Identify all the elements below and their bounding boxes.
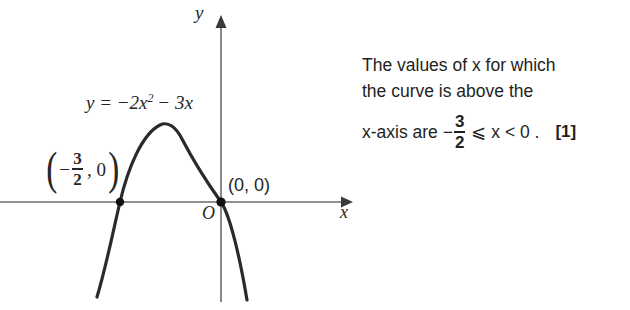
y-axis xyxy=(216,15,227,302)
answer-line-1: The values of x for which xyxy=(362,52,626,78)
fraction-denominator: 2 xyxy=(72,170,83,188)
point-label-root: ( − 3 2 , 0 ) xyxy=(44,150,121,188)
curve-equation-rhs: − 3x xyxy=(154,92,193,113)
curve-equation-lhs: y = −2x xyxy=(86,92,148,113)
answer-line-3-prefix: x-axis are − xyxy=(362,119,453,145)
marks-badge: [1] xyxy=(555,119,576,145)
answer-fraction-denominator: 2 xyxy=(454,133,465,151)
curve-equation-label: y = −2x2 − 3x xyxy=(86,92,193,112)
answer-inequality: ⩽ x < 0 . xyxy=(471,119,539,145)
axis-label-y: y xyxy=(195,3,203,22)
answer-fraction-numerator: 3 xyxy=(454,113,465,131)
worked-solution-figure: y = −2x2 − 3x y x O (0, 0) ( − 3 2 , 0 )… xyxy=(0,0,630,310)
axis-label-x: x xyxy=(340,203,348,221)
fraction-three-halves: 3 2 xyxy=(72,150,83,188)
root-point-origin xyxy=(216,197,225,206)
point-label-origin: (0, 0) xyxy=(228,176,270,194)
right-paren-glyph: ) xyxy=(108,150,119,188)
x-axis xyxy=(0,197,353,208)
fraction-numerator: 3 xyxy=(72,150,83,168)
negative-sign: − xyxy=(59,160,70,179)
root-point-left xyxy=(116,198,124,206)
y-axis-arrow-icon xyxy=(216,15,227,28)
answer-line-3: x-axis are − 3 2 ⩽ x < 0 . [1] xyxy=(362,113,626,151)
answer-text-block: The values of x for which the curve is a… xyxy=(362,52,626,151)
comma-zero-text: , 0 xyxy=(87,160,106,179)
answer-fraction-three-halves: 3 2 xyxy=(454,113,465,151)
graph-panel: y = −2x2 − 3x y x O (0, 0) ( − 3 2 , 0 ) xyxy=(0,0,360,310)
answer-line-2: the curve is above the xyxy=(362,78,626,104)
left-paren-glyph: ( xyxy=(46,150,57,188)
origin-letter-label: O xyxy=(202,204,215,222)
